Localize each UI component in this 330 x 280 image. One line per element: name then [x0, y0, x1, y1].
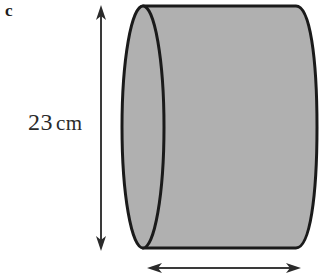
cylinder-shape: [122, 6, 317, 248]
height-unit: cm: [56, 111, 83, 135]
cylinder-barrel: [143, 6, 317, 248]
cylinder-figure: c 23cm: [0, 0, 330, 280]
height-dimension-label: 23cm: [28, 110, 83, 134]
height-value: 23: [28, 109, 53, 135]
cylinder-diagram-svg: [0, 0, 330, 280]
cylinder-front-face: [122, 6, 164, 248]
width-dimension-arrow: [147, 263, 301, 273]
height-dimension-arrow: [96, 5, 106, 251]
